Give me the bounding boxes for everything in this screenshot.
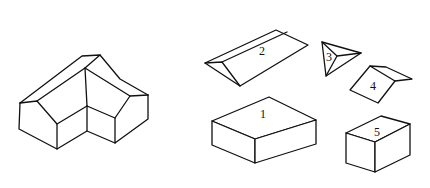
part-3-pyramid: 3: [322, 42, 361, 76]
house-right-ridge: [100, 55, 148, 95]
wedge-outline: [350, 66, 412, 103]
house-right-wing-walls: [87, 95, 148, 143]
composite-house: [19, 55, 148, 149]
diagram-canvas: 2 3 4 1 5: [0, 0, 430, 188]
part-1-label: 1: [260, 107, 266, 121]
prism-top-face: [205, 30, 308, 86]
house-left-wing-walls: [19, 103, 87, 149]
part-5-label: 5: [374, 125, 380, 139]
part-2-label: 2: [259, 44, 265, 58]
part-2-triangular-prism: 2: [205, 30, 308, 86]
house-valley: [85, 68, 87, 106]
house-main-roof: [20, 55, 100, 103]
part-5-short-block: 5: [346, 116, 410, 172]
house-right-gable-top: [130, 95, 148, 96]
part-4-wedge: 4: [350, 66, 412, 103]
house-left-gable: [20, 101, 87, 124]
part-3-label: 3: [326, 50, 332, 64]
house-right-roof: [85, 68, 130, 118]
part-1-long-block: 1: [212, 97, 316, 163]
house-right-base: [87, 131, 115, 143]
part-4-label: 4: [370, 79, 376, 93]
